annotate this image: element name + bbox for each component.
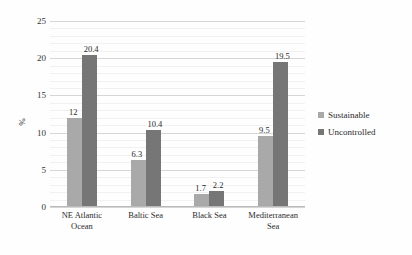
y-axis-tick-label: 25 [8,16,50,26]
bar-chart: % 0510152025 1220.46.310.41.72.29.519.5 … [0,0,412,255]
y-axis-tick-labels: 0510152025 [0,21,50,207]
bar-groups: 1220.46.310.41.72.29.519.5 [50,21,305,207]
bar-group: 1220.4 [50,21,114,207]
x-axis-category-labels: NE Atlantic OceanBaltic SeaBlack SeaMedi… [50,210,305,232]
bar-value-label: 2.2 [213,180,224,190]
bar-group: 9.519.5 [241,21,305,207]
bar-pair: 1.72.2 [194,21,224,207]
bar-value-label: 19.5 [275,51,290,61]
y-axis-tick-label: 0 [8,202,50,212]
bar-pair: 6.310.4 [131,21,161,207]
x-axis-label: Baltic Sea [114,210,178,232]
legend-swatch-icon [318,129,324,135]
bar-value-label: 12 [69,107,77,117]
legend-swatch-icon [318,112,324,118]
bar-sustainable[interactable]: 9.5 [258,136,273,207]
y-axis-tick-label: 5 [8,165,50,175]
bar-group: 1.72.2 [178,21,242,207]
bar-sustainable[interactable]: 6.3 [131,160,146,207]
x-axis-line [50,206,305,207]
bar-value-label: 9.5 [259,125,270,135]
bar-value-label: 20.4 [84,44,99,54]
y-axis-tick-label: 10 [8,128,50,138]
x-axis-label: Mediterranean Sea [241,210,305,232]
bar-value-label: 6.3 [132,149,143,159]
legend-item[interactable]: Sustainable [318,110,410,120]
bar-value-label: 10.4 [147,119,162,129]
x-axis-label: NE Atlantic Ocean [50,210,114,232]
legend-item[interactable]: Uncontrolled [318,127,410,137]
bar-pair: 1220.4 [67,21,97,207]
bar-uncontrolled[interactable]: 2.2 [209,191,224,207]
chart-legend: SustainableUncontrolled [318,110,410,144]
y-axis-tick-label: 15 [8,90,50,100]
bar-uncontrolled[interactable]: 10.4 [146,130,161,207]
x-axis-label: Black Sea [178,210,242,232]
legend-label: Sustainable [328,110,370,120]
bar-sustainable[interactable]: 12 [67,118,82,207]
y-axis-tick-label: 20 [8,53,50,63]
bar-uncontrolled[interactable]: 19.5 [273,62,288,207]
bar-uncontrolled[interactable]: 20.4 [82,55,97,207]
bar-pair: 9.519.5 [258,21,288,207]
plot-area: 1220.46.310.41.72.29.519.5 [50,21,305,207]
legend-label: Uncontrolled [328,127,376,137]
gridline-major [50,207,305,208]
bar-group: 6.310.4 [114,21,178,207]
bar-value-label: 1.7 [195,183,206,193]
